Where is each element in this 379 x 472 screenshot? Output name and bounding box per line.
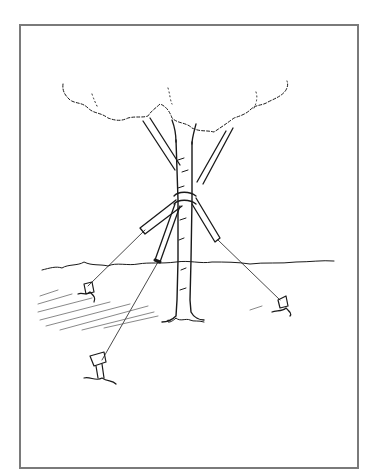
tree-trunk bbox=[162, 140, 204, 322]
tree-canopy bbox=[63, 81, 288, 132]
staked-tree-illustration bbox=[0, 0, 379, 472]
guy-wires bbox=[88, 230, 280, 360]
support-collar bbox=[140, 192, 220, 262]
shadow-hatching bbox=[38, 290, 262, 330]
ground-line bbox=[42, 261, 334, 270]
ground-stakes bbox=[78, 282, 291, 384]
branches bbox=[143, 118, 233, 184]
